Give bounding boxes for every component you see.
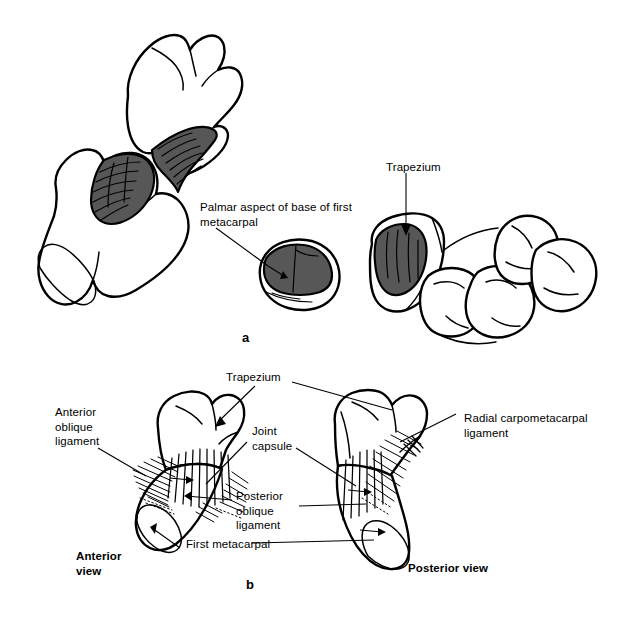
label-posterior-view: Posterior view xyxy=(408,561,488,576)
posterior-view-joint xyxy=(335,390,427,569)
anatomical-figure: Palmar aspect of base of first metacarpa… xyxy=(0,0,624,622)
label-anterior-oblique-ligament: Anterior oblique ligament xyxy=(55,405,99,449)
label-trapezium-bottom: Trapezium xyxy=(226,370,281,385)
label-first-metacarpal: First metacarpal xyxy=(186,537,270,552)
leader-trapezium-top xyxy=(401,173,411,236)
leader-anterior-oblique-ligament xyxy=(98,448,146,476)
label-trapezium-top: Trapezium xyxy=(386,160,441,175)
label-palmar-aspect: Palmar aspect of base of first metacarpa… xyxy=(200,200,360,229)
panel-letter-a: a xyxy=(242,330,249,345)
figure-artwork xyxy=(0,0,624,622)
metacarpal-base-cross-section xyxy=(260,240,340,310)
distal-carpal-row xyxy=(370,213,596,343)
label-anterior-view: Anterior view xyxy=(76,549,122,578)
leader-palmar-aspect xyxy=(216,228,268,266)
label-radial-carpometacarpal-ligament: Radial carpometacarpal ligament xyxy=(464,411,614,440)
label-joint-capsule: Joint capsule xyxy=(252,424,292,453)
label-posterior-oblique-ligament: Posterior oblique ligament xyxy=(236,489,283,533)
panel-letter-b: b xyxy=(246,577,254,592)
anterior-view-joint xyxy=(133,392,248,553)
